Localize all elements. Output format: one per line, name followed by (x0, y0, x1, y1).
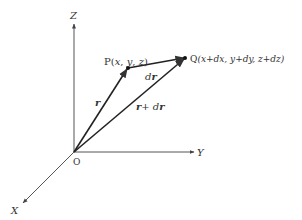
vector-diagram: Z Y X O P(x, y, z) Q(x+dx, y+dy, z+dz) d… (0, 0, 302, 220)
y-axis-label: Y (197, 147, 205, 158)
x-axis (23, 152, 74, 203)
z-axis-label: Z (69, 10, 78, 21)
point-p-label: P(x, y, z) (104, 56, 148, 67)
point-q (183, 56, 187, 60)
x-axis-label: X (10, 205, 19, 216)
vector-r-plus-dr (74, 59, 184, 152)
vector-r-plus-dr-label: r+ dr (136, 101, 165, 112)
vector-dr-label: dr (145, 71, 157, 82)
point-q-label: Q(x+dx, y+dy, z+dz) (190, 54, 285, 64)
vector-r-label: r (95, 97, 101, 108)
vector-r (74, 69, 127, 152)
origin-label: O (73, 157, 80, 167)
